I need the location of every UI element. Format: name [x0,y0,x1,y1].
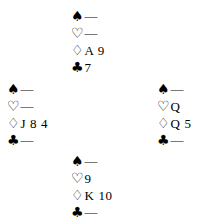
hand-north-spades-row: ♠— [71,7,105,24]
diamond-suit-symbol: ♢ [7,115,20,132]
hand-south-diamonds-cards: K 10 [84,187,113,204]
hand-west: ♠— ♡— ♢J 8 4 ♣— [7,80,48,148]
spade-suit-symbol: ♠ [71,8,84,25]
club-suit-symbol: ♣ [7,132,20,149]
hand-west-clubs-cards: — [20,131,34,148]
hand-north-diamonds-row: ♢A 9 [71,41,105,58]
hand-south-spades-cards: — [84,152,98,169]
hand-north-clubs-cards: 7 [84,59,92,76]
club-suit-symbol: ♣ [157,132,170,149]
club-suit-symbol: ♣ [71,59,84,76]
hand-east: ♠— ♡Q ♢Q 5 ♣— [157,80,192,148]
hand-south-clubs-row: ♣— [71,203,113,219]
diamond-suit-symbol: ♢ [71,42,84,59]
hand-east-clubs-cards: — [170,131,184,148]
hand-east-diamonds-cards: Q 5 [170,115,192,132]
hand-north-hearts-cards: — [84,24,98,41]
hand-south-hearts-row: ♡9 [71,169,113,186]
hand-west-diamonds-row: ♢J 8 4 [7,114,48,131]
hand-north-clubs-row: ♣7 [71,58,105,75]
hand-south-diamonds-row: ♢K 10 [71,186,113,203]
hand-south-spades-row: ♠— [71,152,113,169]
hand-west-hearts-row: ♡— [7,97,48,114]
hand-south-hearts-cards: 9 [84,170,92,187]
hand-west-hearts-cards: — [20,97,34,114]
hand-east-spades-cards: — [170,80,184,97]
hand-north: ♠— ♡— ♢A 9 ♣7 [71,7,105,75]
hand-east-clubs-row: ♣— [157,131,192,148]
heart-suit-symbol: ♡ [157,98,170,115]
hand-north-hearts-row: ♡— [71,24,105,41]
spade-suit-symbol: ♠ [157,81,170,98]
hand-west-spades-row: ♠— [7,80,48,97]
hand-west-clubs-row: ♣— [7,131,48,148]
spade-suit-symbol: ♠ [71,153,84,170]
hand-south-clubs-cards: — [84,203,98,219]
hand-east-hearts-row: ♡Q [157,97,192,114]
hand-west-diamonds-cards: J 8 4 [20,115,49,132]
heart-suit-symbol: ♡ [71,170,84,187]
hand-east-spades-row: ♠— [157,80,192,97]
hand-east-diamonds-row: ♢Q 5 [157,114,192,131]
heart-suit-symbol: ♡ [7,98,20,115]
hand-west-spades-cards: — [20,80,34,97]
hand-south: ♠— ♡9 ♢K 10 ♣— [71,152,113,219]
hand-north-diamonds-cards: A 9 [84,42,105,59]
heart-suit-symbol: ♡ [71,25,84,42]
hand-east-hearts-cards: Q [170,98,181,115]
diamond-suit-symbol: ♢ [71,187,84,204]
hand-north-spades-cards: — [84,7,98,24]
diamond-suit-symbol: ♢ [157,115,170,132]
spade-suit-symbol: ♠ [7,81,20,98]
bridge-hand-diagram: ♠— ♡— ♢A 9 ♣7 ♠— ♡— ♢J 8 4 ♣— ♠— ♡Q [0,0,207,219]
club-suit-symbol: ♣ [71,204,84,219]
